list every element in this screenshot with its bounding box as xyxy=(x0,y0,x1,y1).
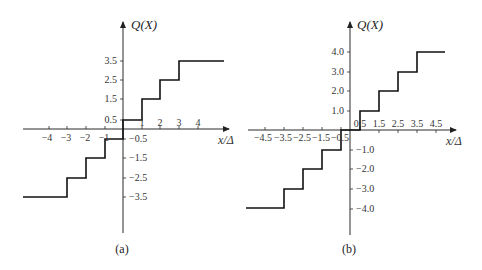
svg-text:−3: −3 xyxy=(61,132,72,143)
svg-text:4: 4 xyxy=(196,117,201,128)
svg-text:−4: −4 xyxy=(42,132,53,143)
chart-b: Q(X) x/Δ −4.5 −3.5 −2.5 −1.5 −0.5 0.5 1.… xyxy=(246,17,462,256)
figure: Q(X) x/Δ −4 −3 −2 −1 1 2 3 4 3.5 2.5 1.5… xyxy=(0,0,482,270)
svg-text:−2.5: −2.5 xyxy=(129,172,147,183)
x-axis-title: x/Δ xyxy=(217,133,234,147)
svg-text:0.5: 0.5 xyxy=(354,118,367,129)
svg-text:−4.0: −4.0 xyxy=(356,203,374,214)
caption-a: (a) xyxy=(115,242,128,256)
svg-text:4.5: 4.5 xyxy=(430,118,443,129)
svg-text:−0.5: −0.5 xyxy=(331,132,349,143)
caption-b: (b) xyxy=(342,242,356,256)
svg-text:2.5: 2.5 xyxy=(105,74,118,85)
svg-text:−1.0: −1.0 xyxy=(356,144,374,155)
svg-text:−2: −2 xyxy=(80,132,91,143)
svg-text:1.0: 1.0 xyxy=(332,105,345,116)
x-axis-title: x/Δ xyxy=(445,134,462,148)
svg-text:−1.5: −1.5 xyxy=(129,152,147,163)
svg-text:−3.0: −3.0 xyxy=(356,183,374,194)
svg-text:2.5: 2.5 xyxy=(392,118,405,129)
svg-text:4.0: 4.0 xyxy=(332,46,345,57)
svg-text:3.0: 3.0 xyxy=(332,66,345,77)
svg-text:3.5: 3.5 xyxy=(105,55,118,66)
svg-text:1.5: 1.5 xyxy=(373,118,386,129)
svg-text:2: 2 xyxy=(158,117,163,128)
svg-text:−3.5: −3.5 xyxy=(274,132,292,143)
svg-text:3: 3 xyxy=(177,117,182,128)
svg-text:3.5: 3.5 xyxy=(411,118,424,129)
svg-text:2.0: 2.0 xyxy=(332,85,345,96)
svg-text:−1: −1 xyxy=(99,132,110,143)
svg-text:−2.5: −2.5 xyxy=(293,132,311,143)
svg-text:−2.0: −2.0 xyxy=(356,163,374,174)
svg-text:−1.5: −1.5 xyxy=(312,132,330,143)
y-axis-title: Q(X) xyxy=(131,17,157,32)
svg-text:−0.5: −0.5 xyxy=(129,133,147,144)
svg-text:0.5: 0.5 xyxy=(105,114,118,125)
svg-text:1.5: 1.5 xyxy=(105,93,118,104)
chart-a: Q(X) x/Δ −4 −3 −2 −1 1 2 3 4 3.5 2.5 1.5… xyxy=(23,17,234,256)
y-axis-title: Q(X) xyxy=(357,17,383,32)
svg-text:−3.5: −3.5 xyxy=(129,191,147,202)
svg-text:1: 1 xyxy=(140,117,145,128)
svg-text:−4.5: −4.5 xyxy=(254,132,272,143)
